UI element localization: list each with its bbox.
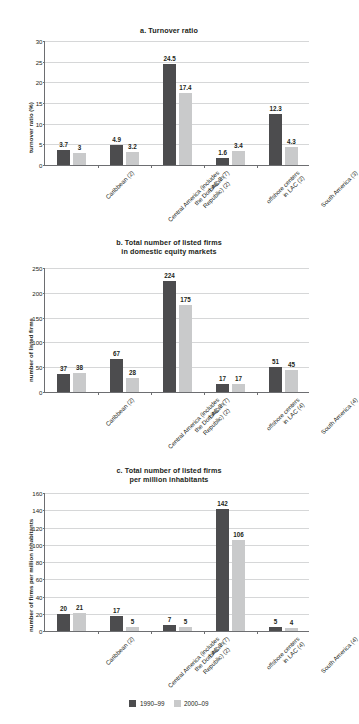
bar-value-label: 24.5	[163, 55, 175, 62]
bar-c-0-0	[57, 614, 71, 631]
x-category-label: Caribbean (2)	[104, 396, 136, 428]
category-separator-tick	[204, 631, 205, 634]
y-tick-mark	[43, 144, 45, 145]
bar-b-1-1	[126, 378, 140, 392]
bar-c-1-1	[126, 627, 140, 631]
gridline	[45, 82, 309, 83]
gridline	[45, 562, 309, 563]
bar-c-3-0	[216, 509, 230, 631]
bar-value-label: 21	[76, 604, 83, 611]
bar-b-4-0	[269, 367, 283, 392]
bar-value-label: 4.9	[112, 136, 121, 143]
y-tick-mark	[43, 631, 45, 632]
bar-c-4-1	[285, 628, 299, 631]
x-category-label-line: South America (4)	[319, 396, 359, 436]
bar-value-label: 5	[274, 618, 278, 625]
y-tick-label: 80	[36, 559, 43, 566]
y-tick-label: 0	[39, 389, 42, 396]
category-separator-tick	[257, 631, 258, 634]
category-separator-tick	[257, 165, 258, 168]
plot-area-b: 0501001502002503738672822417517175145	[44, 268, 309, 392]
y-tick-mark	[43, 493, 45, 494]
plot-area-a: 0510152025303.734.93.224.517.41.63.412.3…	[44, 41, 309, 165]
x-axis-line	[45, 631, 309, 632]
bar-value-label: 17	[219, 375, 226, 382]
bar-b-3-0	[216, 384, 230, 392]
bar-value-label: 20	[60, 605, 67, 612]
x-category-label: Caribbean (2)	[104, 169, 136, 201]
bar-a-4-0	[269, 114, 283, 165]
y-tick-label: 150	[32, 314, 42, 321]
bar-c-2-1	[179, 627, 193, 631]
category-separator-tick	[151, 165, 152, 168]
category-separator-tick	[151, 631, 152, 634]
y-tick-mark	[43, 124, 45, 125]
bar-c-3-1	[232, 540, 246, 631]
y-axis-label-c: number of firms per million inhabitants	[27, 519, 34, 632]
plot-wrap-c: number of firms per million inhabitants …	[0, 462, 338, 724]
x-category-label: South America (4)	[319, 396, 359, 436]
gridline	[45, 597, 309, 598]
gridline	[45, 342, 309, 343]
gridline	[45, 103, 309, 104]
gridline	[45, 545, 309, 546]
y-tick-label: 15	[36, 100, 43, 107]
legend-swatch-2000-09	[174, 700, 181, 707]
y-tick-mark	[43, 562, 45, 563]
bar-b-2-0	[163, 281, 177, 392]
x-category-label-line: South America (3)	[319, 169, 359, 209]
x-category-label: Caribbean (2)	[104, 635, 136, 667]
x-category-label: offshore centersin LAC (4)	[265, 396, 306, 437]
y-axis-label-b: number of listed firms	[27, 318, 34, 382]
gridline	[45, 293, 309, 294]
bar-a-1-0	[110, 145, 124, 165]
gridline	[45, 528, 309, 529]
category-separator-tick	[204, 392, 205, 395]
y-tick-mark	[43, 165, 45, 166]
bar-a-3-1	[232, 151, 246, 165]
bar-a-2-1	[179, 93, 193, 165]
bar-value-label: 7	[168, 616, 172, 623]
plot-area-c: 02040608010012014016020211757514210654	[44, 493, 309, 631]
x-category-label: South America (3)	[319, 169, 359, 209]
y-tick-mark	[43, 597, 45, 598]
plot-wrap-b: number of listed firms 05010015020025037…	[0, 234, 338, 462]
y-axis-label-a: turnover ratio (%)	[27, 102, 34, 153]
chart-panel-a: a. Turnover ratio turnover ratio (%) 051…	[0, 0, 338, 230]
y-tick-label: 60	[36, 576, 43, 583]
bar-a-3-0	[216, 158, 230, 165]
y-tick-mark	[43, 510, 45, 511]
legend-item-1990-99: 1990–99	[129, 700, 164, 707]
bar-value-label: 175	[180, 296, 191, 303]
category-separator-tick	[98, 165, 99, 168]
bar-value-label: 3.4	[234, 142, 243, 149]
bar-c-4-0	[269, 627, 283, 631]
bar-a-4-1	[285, 147, 299, 165]
y-tick-label: 200	[32, 289, 42, 296]
legend-label-2000-09: 2000–09	[184, 700, 209, 707]
bar-value-label: 5	[184, 618, 188, 625]
gridline	[45, 62, 309, 63]
gridline	[45, 510, 309, 511]
x-category-label: South America (4)	[319, 635, 359, 675]
bar-a-2-0	[163, 64, 177, 165]
category-separator-tick	[98, 392, 99, 395]
y-tick-label: 160	[32, 490, 42, 497]
y-tick-mark	[43, 614, 45, 615]
gridline	[45, 268, 309, 269]
chart-panel-c: c. Total number of listed firms per mill…	[0, 462, 338, 724]
bar-value-label: 12.3	[269, 105, 281, 112]
legend-swatch-1990-99	[129, 700, 136, 707]
y-tick-label: 100	[32, 541, 42, 548]
y-tick-label: 0	[39, 628, 42, 635]
bar-value-label: 5	[131, 618, 135, 625]
bar-value-label: 4	[290, 619, 294, 626]
y-tick-label: 0	[39, 162, 42, 169]
plot-wrap-a: turnover ratio (%) 0510152025303.734.93.…	[0, 0, 338, 230]
y-tick-label: 40	[36, 593, 43, 600]
bar-value-label: 17	[235, 375, 242, 382]
bar-value-label: 45	[288, 361, 295, 368]
gridline	[45, 493, 309, 494]
bar-a-0-1	[73, 153, 87, 165]
